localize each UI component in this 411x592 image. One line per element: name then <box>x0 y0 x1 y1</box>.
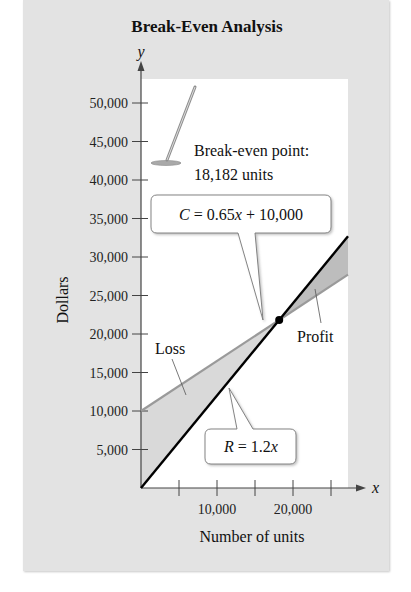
x-axis-arrow-icon <box>356 485 366 492</box>
x-axis-symbol: x <box>371 479 379 496</box>
x-axis-title: Number of units <box>200 528 305 545</box>
y-tick-label: 35,000 <box>90 212 129 227</box>
cost-equation: C = 0.65x + 10,000 <box>179 206 303 223</box>
y-tick-label: 25,000 <box>90 289 129 304</box>
y-axis-title: Dollars <box>54 276 71 323</box>
break-even-label: Break-even point: <box>194 142 309 160</box>
y-tick-label: 50,000 <box>90 96 129 111</box>
x-tick-label: 20,000 <box>274 502 313 517</box>
y-axis-arrow-icon <box>138 61 145 71</box>
break-even-units: 18,182 units <box>194 166 273 183</box>
break-even-point <box>275 316 283 324</box>
y-tick-label: 10,000 <box>90 404 129 419</box>
y-tick-label: 45,000 <box>90 135 129 150</box>
y-tick-label: 5,000 <box>97 443 129 458</box>
y-tick-label: 20,000 <box>90 327 129 342</box>
y-axis-ticks: 5,00010,00015,00020,00025,00030,00035,00… <box>90 96 149 458</box>
profit-label: Profit <box>297 328 334 345</box>
y-tick-label: 40,000 <box>90 173 129 188</box>
x-tick-label: 10,000 <box>198 502 237 517</box>
chart-title: Break-Even Analysis <box>131 17 283 36</box>
y-tick-label: 30,000 <box>90 250 129 265</box>
loss-label: Loss <box>155 340 185 357</box>
y-axis-symbol: y <box>135 43 145 61</box>
revenue-equation: R = 1.2x <box>223 438 278 455</box>
break-even-chart: Break-Even Analysis y x 5,00010,00015,00… <box>0 0 411 592</box>
y-tick-label: 15,000 <box>90 366 129 381</box>
